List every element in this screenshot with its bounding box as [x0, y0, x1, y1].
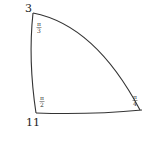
edge-top [33, 13, 140, 110]
vertex-label-top-left: 3 [25, 2, 32, 15]
angle-denominator: 2 [40, 101, 44, 108]
edge-left [31, 13, 36, 113]
angle-denominator: 4 [133, 100, 137, 107]
angle-numerator: π [133, 93, 137, 100]
angle-numerator: π [37, 20, 41, 27]
angle-label-bottom-left: π 2 [40, 94, 45, 108]
angle-denominator: 3 [37, 27, 41, 34]
angle-label-right: π 4 [133, 93, 138, 107]
vertex-label-bottom-left: 11 [26, 116, 40, 129]
angle-label-top-left: π 3 [37, 20, 42, 34]
spherical-triangle-diagram: 3 11 π 3 π 2 π 4 [0, 0, 142, 141]
edge-bottom [36, 110, 142, 114]
angle-numerator: π [40, 94, 44, 101]
